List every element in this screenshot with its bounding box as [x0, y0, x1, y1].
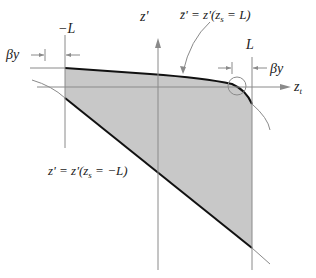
upper-label-leader [183, 22, 210, 72]
upper-curve-label-head: z̄' = z'(z [180, 7, 220, 22]
z-t-axis-label: zt [294, 80, 302, 96]
lower-curve-label: z' = z'(zs = −L) [48, 164, 127, 180]
upper-label-leader-arrowhead-icon [180, 66, 186, 74]
z-prime-axis-arrow-icon [155, 38, 161, 48]
upper-curve-label-tail: = L) [224, 7, 251, 22]
minus-L-label: −L [58, 22, 75, 36]
diagram-canvas [0, 0, 316, 278]
beta-y-right-arrowhead-b-icon [253, 66, 258, 70]
lower-curve-right-extension [252, 248, 270, 264]
z-t-axis-arrow-icon [280, 84, 291, 90]
beta-y-right-label: βy [270, 62, 283, 76]
z-prime-axis-label: z' [140, 10, 148, 24]
beta-y-left-arrowhead-b-icon [66, 53, 71, 57]
lower-curve-label-head: z' = z'(z [48, 163, 88, 178]
beta-y-left-label: βy [6, 48, 19, 62]
beta-y-left-arrowhead-a-icon [39, 53, 44, 57]
z-t-sub: t [299, 86, 302, 96]
lower-curve-left-extension [32, 80, 65, 98]
beta-y-right-arrowhead-a-icon [226, 66, 231, 70]
L-label: L [246, 38, 254, 52]
upper-curve-right-extension [252, 104, 270, 130]
lower-curve-label-tail: = −L) [92, 163, 128, 178]
upper-curve-label: z̄' = z'(zs = L) [180, 8, 251, 24]
